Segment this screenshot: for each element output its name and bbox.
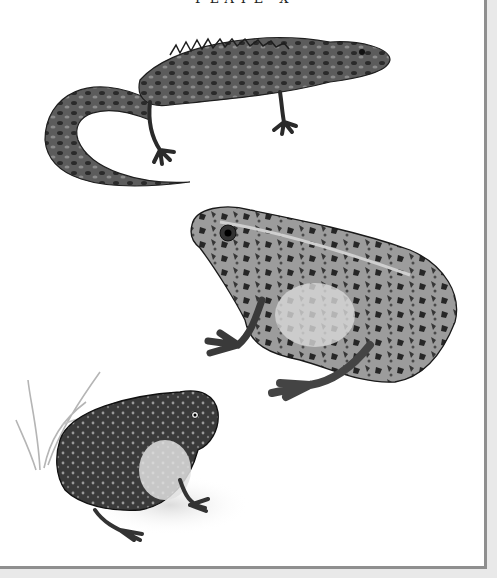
engraving-illustration: [0, 0, 484, 566]
illustration-page: PLATE X: [0, 0, 487, 569]
newt-figure: [45, 38, 390, 186]
frog-figure: [191, 207, 457, 397]
toad-figure: [16, 372, 250, 540]
